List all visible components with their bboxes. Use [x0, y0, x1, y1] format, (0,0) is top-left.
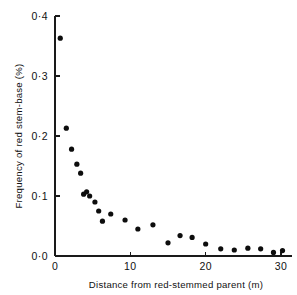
data-point: [203, 241, 208, 246]
scatter-plot-figure: 0·00·10·20·30·4 0102030 Distance from re…: [0, 0, 297, 295]
data-point: [135, 226, 140, 231]
data-point: [69, 147, 74, 152]
plot-canvas: 0·00·10·20·30·4 0102030 Distance from re…: [0, 0, 297, 295]
data-point: [190, 235, 195, 240]
data-point: [258, 246, 263, 251]
data-point: [96, 208, 101, 213]
x-tick-label: 20: [199, 260, 211, 272]
data-points-layer: [58, 36, 285, 255]
y-axis-title: Frequency of red stem-base (%): [13, 63, 24, 208]
data-point: [100, 219, 105, 224]
data-point: [271, 250, 276, 255]
x-tick-label: 10: [124, 260, 136, 272]
y-axis: 0·00·10·20·30·4: [32, 10, 60, 262]
data-point: [232, 247, 237, 252]
data-point: [92, 199, 97, 204]
data-point: [78, 171, 83, 176]
data-point: [218, 246, 223, 251]
data-point: [165, 240, 170, 245]
data-point: [87, 193, 92, 198]
data-point: [245, 246, 250, 251]
x-axis-title: Distance from red-stemmed parent (m): [89, 279, 263, 290]
data-point: [58, 36, 63, 41]
y-tick-label: 0·1: [32, 190, 48, 202]
data-point: [150, 222, 155, 227]
y-tick-label: 0·4: [32, 10, 48, 22]
x-tick-label: 0: [52, 260, 58, 272]
x-axis-ticks: 0102030: [52, 252, 287, 273]
x-axis: 0102030: [52, 252, 292, 273]
data-point: [122, 217, 127, 222]
x-tick-label: 30: [275, 260, 287, 272]
data-point: [74, 162, 79, 167]
y-tick-label: 0·0: [32, 250, 48, 262]
data-point: [64, 126, 69, 131]
data-point: [84, 189, 89, 194]
data-point: [280, 248, 285, 253]
y-tick-label: 0·2: [32, 130, 48, 142]
y-tick-label: 0·3: [32, 70, 48, 82]
data-point: [177, 233, 182, 238]
data-point: [108, 211, 113, 216]
